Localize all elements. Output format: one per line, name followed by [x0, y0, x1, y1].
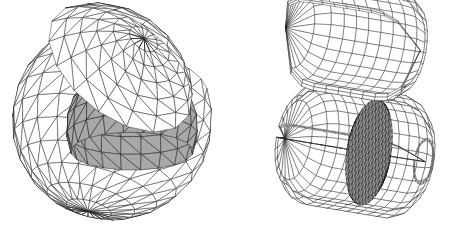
wireframe-mesh-figure	[0, 0, 465, 233]
right-panel-quad-capsule	[275, 0, 435, 218]
figure-canvas	[0, 0, 465, 233]
